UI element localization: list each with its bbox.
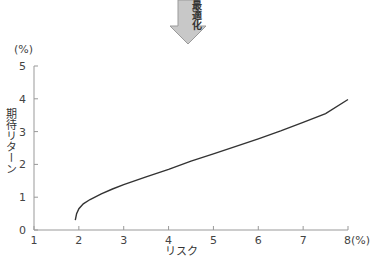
y-tick-label: 2 [19, 158, 26, 171]
y-tick-label: 5 [19, 60, 26, 73]
y-tick-label: 4 [19, 93, 26, 106]
tick-labels: 01234512345678(%) [19, 60, 370, 247]
frontier-chart: 01234512345678(%) [0, 0, 373, 263]
x-tick-label: 3 [120, 234, 127, 247]
x-tick-label: 1 [31, 234, 38, 247]
frontier-curve [75, 100, 348, 221]
x-tick-label: 4 [165, 234, 172, 247]
x-tick-label: 6 [255, 234, 262, 247]
y-tick-label: 3 [19, 126, 26, 139]
y-tick-label: 0 [19, 224, 26, 237]
x-tick-label: 7 [300, 234, 307, 247]
x-tick-label: 5 [210, 234, 217, 247]
x-tick-label: 8(%) [344, 234, 370, 247]
x-tick-label: 2 [75, 234, 82, 247]
y-tick-label: 1 [19, 191, 26, 204]
